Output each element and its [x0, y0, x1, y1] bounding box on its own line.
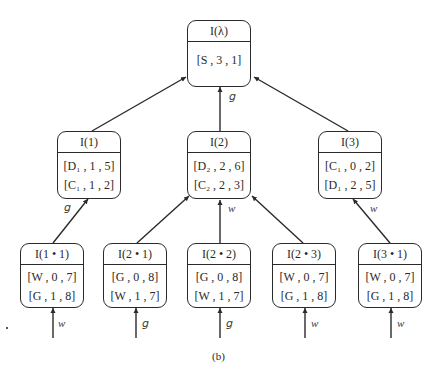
node-root: I(λ) [S , 3 , 1]	[187, 20, 251, 87]
node-entry: [G , 1 , 8]	[359, 287, 421, 306]
node-entry: [C₁ , 0 , 2]	[319, 157, 381, 176]
node-entry: [G , 1 , 8]	[273, 287, 335, 306]
edge-n23-n2	[252, 196, 303, 243]
edge-label-n11-n1: g	[64, 201, 71, 214]
node-entry: [G , 1 , 8]	[21, 287, 83, 306]
node-entry: [G , 0 , 8]	[188, 268, 250, 287]
node-3-1: I(3 • 1) [W , 0 , 7] [G , 1 , 8]	[358, 243, 422, 308]
edge-label-input-n22: g	[226, 317, 233, 330]
node-entry: [S , 3 , 1]	[188, 51, 250, 70]
node-title: I(2 • 2)	[188, 244, 250, 265]
node-2-1: I(2 • 1) [G , 0 , 8] [W , 1 , 7]	[103, 243, 167, 308]
stray-dot	[6, 327, 8, 329]
node-entry: [W , 0 , 7]	[359, 268, 421, 287]
node-entry: [W , 0 , 7]	[273, 268, 335, 287]
node-entry: [D₁ , 2 , 5]	[319, 176, 381, 195]
edge-n3-root	[254, 77, 348, 131]
figure-caption: (b)	[212, 350, 225, 362]
node-title: I(2 • 1)	[104, 244, 166, 265]
node-entry: [D₁ , 1 , 5]	[58, 157, 120, 176]
node-2-3: I(2 • 3) [W , 0 , 7] [G , 1 , 8]	[272, 243, 336, 308]
node-entry: [D₂ , 2 , 6]	[188, 157, 250, 176]
edge-label-n31-n3: w	[370, 202, 377, 214]
edge-n1-root	[92, 77, 186, 131]
node-entry: [W , 0 , 7]	[21, 268, 83, 287]
node-1-1: I(1 • 1) [W , 0 , 7] [G , 1 , 8]	[20, 243, 84, 308]
node-1: I(1) [D₁ , 1 , 5] [C₁ , 1 , 2]	[57, 131, 121, 199]
node-3: I(3) [C₁ , 0 , 2] [D₁ , 2 , 5]	[318, 131, 382, 199]
node-entry: [G , 0 , 8]	[104, 268, 166, 287]
node-title: I(1)	[58, 132, 120, 153]
node-title: I(2 • 3)	[273, 244, 335, 265]
node-title: I(3)	[319, 132, 381, 153]
node-title: I(1 • 1)	[21, 244, 83, 265]
edge-label-n2-root: g	[229, 90, 236, 103]
node-title: I(2)	[188, 132, 250, 153]
node-2: I(2) [D₂ , 2 , 6] [C₂ , 2 , 3]	[187, 131, 251, 199]
edge-label-input-n11: w	[58, 317, 65, 329]
node-2-2: I(2 • 2) [G , 0 , 8] [W , 1 , 7]	[187, 243, 251, 308]
node-title: I(λ)	[188, 21, 250, 42]
edge-label-input-n23: w	[311, 317, 318, 329]
node-title: I(3 • 1)	[359, 244, 421, 265]
edge-label-input-n31: w	[397, 317, 404, 329]
edge-label-n22-n2: w	[228, 202, 235, 214]
edge-label-input-n21: g	[142, 317, 149, 330]
edge-n21-n2	[137, 196, 189, 243]
node-entry: [C₂ , 2 , 3]	[188, 176, 250, 195]
node-entry: [W , 1 , 7]	[104, 287, 166, 306]
node-entry: [W , 1 , 7]	[188, 287, 250, 306]
node-entry: [C₁ , 1 , 2]	[58, 176, 120, 195]
